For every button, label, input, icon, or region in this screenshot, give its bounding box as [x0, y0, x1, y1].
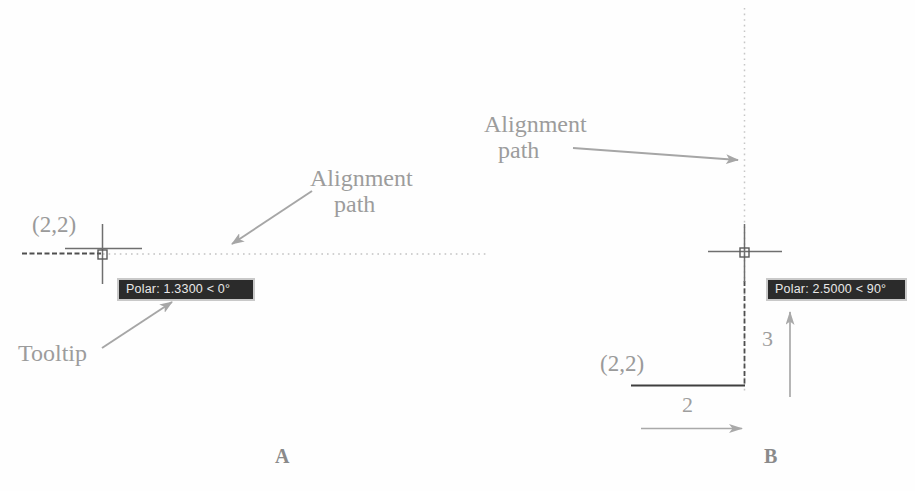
panel-b-crosshair-cursor [708, 224, 782, 282]
panel-b-horizontal-dimension-label: 2 [682, 393, 693, 416]
panel-b-alignment-callout-line1: Alignment [484, 112, 587, 137]
panel-a-coordinate-label: (2,2) [32, 213, 76, 237]
panel-a-tooltip-callout-label: Tooltip [18, 341, 87, 366]
panel-a-alignment-callout-arrow [232, 191, 312, 244]
panel-b-label: B [764, 446, 777, 467]
panel-b-vertical-dimension-label: 3 [762, 327, 773, 350]
panel-b-polar-tooltip: Polar: 2.5000 < 90° [766, 278, 907, 301]
panel-a-tooltip-callout-arrow [102, 302, 172, 348]
diagram-vector-layer [0, 0, 915, 491]
panel-b-coordinate-label: (2,2) [600, 352, 644, 376]
panel-a-label: A [275, 446, 289, 467]
panel-b-alignment-callout-arrow [573, 148, 738, 160]
panel-b-alignment-callout-line2: path [498, 138, 539, 163]
panel-a-alignment-callout-line2: path [334, 192, 375, 217]
panel-a-alignment-callout-line1: Alignment [310, 166, 413, 191]
panel-a-polar-tooltip: Polar: 1.3300 < 0° [117, 278, 255, 301]
figure-canvas: (2,2) Alignment path Tooltip Polar: 1.33… [0, 0, 915, 491]
